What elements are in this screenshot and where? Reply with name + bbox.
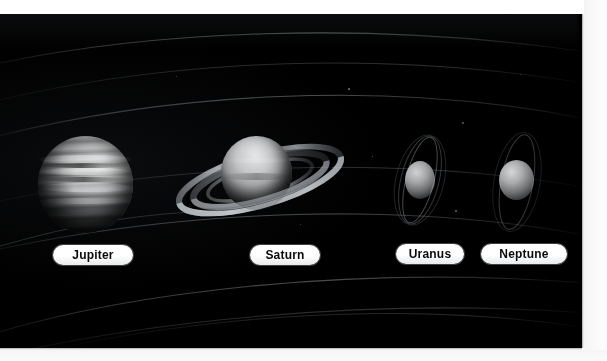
plate-edge-shadow-right — [582, 14, 584, 348]
planet-label-uranus[interactable]: Uranus — [396, 244, 464, 264]
star-speck — [462, 122, 464, 124]
paper-margin-bottom-fill — [0, 350, 607, 361]
planet-saturn — [221, 136, 292, 210]
paper-margin-top — [0, 0, 607, 14]
star-speck — [348, 88, 350, 90]
planet-label-saturn[interactable]: Saturn — [250, 245, 320, 265]
planet-label-jupiter[interactable]: Jupiter — [53, 245, 133, 265]
planet-label-text: Saturn — [265, 248, 304, 262]
planet-label-text: Uranus — [409, 247, 452, 261]
planet-label-text: Jupiter — [72, 248, 113, 262]
scanned-page: Jupiter Saturn Uranus Neptune — [0, 0, 607, 361]
neptune-ring-arcs — [480, 130, 554, 234]
planet-jupiter — [38, 136, 133, 233]
uranus-ring-system — [386, 132, 454, 228]
star-speck — [455, 210, 457, 212]
planet-label-text: Neptune — [499, 247, 548, 261]
saturn-terminator-shading — [221, 136, 292, 210]
planet-label-neptune[interactable]: Neptune — [481, 244, 567, 264]
paper-margin-right-fill — [584, 0, 607, 361]
plate-edge-shadow-bottom — [0, 348, 582, 350]
jupiter-terminator-shading — [38, 136, 133, 233]
astronomy-photo-plate — [0, 14, 582, 348]
star-speck — [372, 156, 373, 157]
star-speck — [520, 74, 521, 75]
star-speck — [176, 76, 177, 77]
